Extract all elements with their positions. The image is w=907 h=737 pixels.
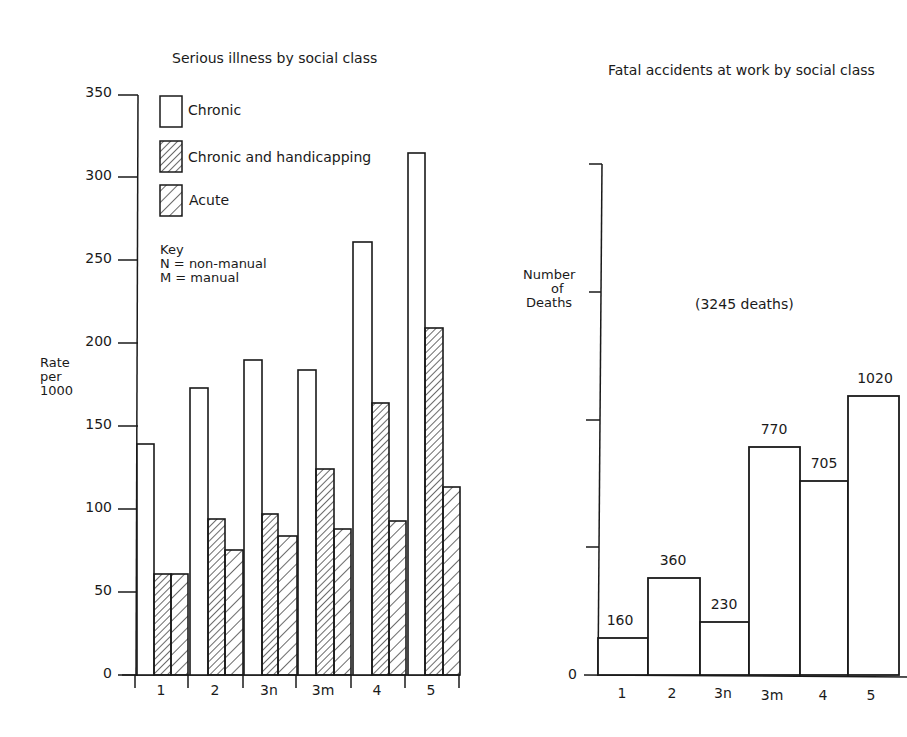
right-x-cat-4: 4 <box>803 687 843 703</box>
right-chart-subtitle: (3245 deaths) <box>695 296 794 312</box>
right-x-cat-3n: 3n <box>703 685 743 701</box>
right-x-cat-3m: 3m <box>752 687 792 703</box>
left-y-axis <box>118 95 138 676</box>
right-x-cat-5: 5 <box>851 687 891 703</box>
left-x-axis <box>122 675 460 688</box>
right-y-axis <box>586 164 602 676</box>
legend-chronic-swatch <box>160 96 182 127</box>
right-chart-title: Fatal accidents at work by social class <box>608 62 875 78</box>
legend-acute-swatch <box>160 185 182 216</box>
value-label-5: 1020 <box>850 370 900 386</box>
value-label-4: 705 <box>799 455 849 471</box>
right-y-axis-label: Number of Deaths <box>523 268 575 310</box>
chart-graphics <box>0 0 907 737</box>
value-label-1: 160 <box>595 612 645 628</box>
right-y-tick-0: 0 <box>568 666 577 682</box>
value-label-3n: 230 <box>699 596 749 612</box>
right-bars <box>598 396 899 675</box>
legend-chronic-handicapping-swatch <box>160 141 182 172</box>
value-label-3m: 770 <box>749 421 799 437</box>
right-x-cat-1: 1 <box>602 685 642 701</box>
value-label-2: 360 <box>648 552 698 568</box>
left-bars <box>137 153 460 675</box>
right-x-cat-2: 2 <box>652 685 692 701</box>
